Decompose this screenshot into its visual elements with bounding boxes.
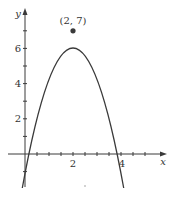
chart-canvas: 2 4 x 2 4 6 y (2, 7) bbox=[0, 0, 178, 199]
x-axis-label: x bbox=[160, 156, 166, 167]
y-axis-arrow-icon bbox=[23, 8, 28, 15]
x-axis: 2 4 x bbox=[8, 152, 167, 170]
y-axis: 2 4 6 y bbox=[14, 8, 27, 187]
y-tick-label-4: 4 bbox=[15, 78, 21, 89]
y-tick-label-6: 6 bbox=[15, 43, 21, 54]
y-axis-label: y bbox=[14, 8, 21, 19]
vertex-label: (2, 7) bbox=[60, 15, 87, 26]
stray-mark bbox=[84, 185, 86, 187]
vertex-point bbox=[70, 28, 75, 33]
x-tick-label-2: 2 bbox=[70, 158, 76, 169]
y-tick-label-2: 2 bbox=[15, 113, 21, 124]
